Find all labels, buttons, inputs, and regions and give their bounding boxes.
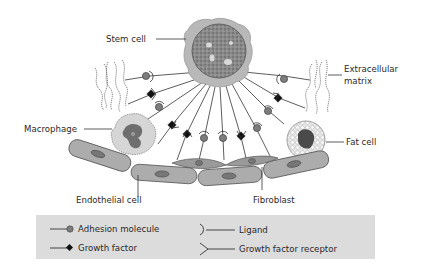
fibroblasts: [172, 156, 278, 168]
macrophage: [111, 114, 156, 155]
label-fibroblast: Fibroblast: [253, 195, 295, 205]
stem-cell-niche-diagram: Stem cell Extracellular matrix Macrophag…: [0, 0, 423, 272]
legend: Adhesion molecule Growth factor Ligand G…: [36, 215, 375, 259]
stem-cell-nucleus: [192, 24, 246, 78]
growth-factors: [147, 88, 282, 140]
extracellular-matrix-right: [306, 60, 330, 114]
legend-ligand-label: Ligand: [239, 225, 268, 235]
label-macrophage: Macrophage: [24, 124, 77, 134]
extracellular-matrix-left: [95, 60, 127, 112]
label-stem-cell: Stem cell: [106, 34, 146, 44]
label-endothelial-cell: Endothelial cell: [76, 195, 142, 205]
label-extracellular-matrix-line2: matrix: [344, 76, 372, 86]
legend-growth-factor-receptor-label: Growth factor receptor: [239, 244, 337, 254]
stem-cell: [184, 18, 252, 86]
legend-growth-factor-label: Growth factor: [78, 243, 137, 253]
label-extracellular-matrix: Extracellular: [344, 64, 399, 74]
legend-adhesion-molecule-label: Adhesion molecule: [78, 224, 159, 234]
label-fat-cell: Fat cell: [346, 137, 376, 147]
